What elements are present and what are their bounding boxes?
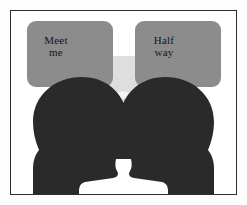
bubble-left-line-1: Meet <box>18 34 94 46</box>
illustration-root: Meet me Half way <box>0 0 247 205</box>
bubble-right-line-2: way <box>126 46 202 58</box>
speech-bubble-left-text: Meet me <box>18 34 94 58</box>
bubble-left-line-2: me <box>18 46 94 58</box>
speech-bubble-right-text: Half way <box>126 34 202 58</box>
bubble-right-line-1: Half <box>126 34 202 46</box>
